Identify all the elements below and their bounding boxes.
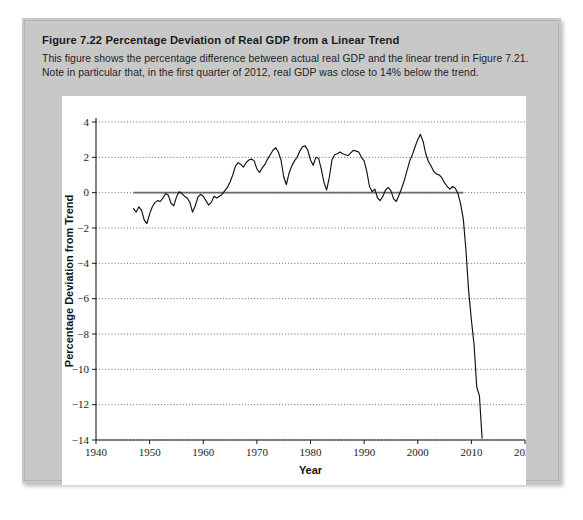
y-tick-label-0: 0 (84, 186, 90, 198)
y-tick-label--8: −8 (77, 328, 89, 340)
y-axis-title: Percentage Deviation from Trend (63, 195, 75, 367)
plot-panel: 420−2−4−6−8−10−12−1419401950196019701980… (62, 96, 526, 485)
x-tick-label-2000: 2000 (407, 446, 430, 458)
x-tick-label-2010: 2010 (460, 446, 483, 458)
y-tick-label--4: −4 (77, 257, 89, 269)
x-tick-label-2020: 2020 (514, 446, 526, 458)
y-tick-label--6: −6 (77, 292, 89, 304)
line-chart: 420−2−4−6−8−10−12−1419401950196019701980… (62, 96, 526, 485)
figure-number: Figure 7.22 (42, 34, 102, 46)
caption-description: This figure shows the percentage differe… (42, 52, 534, 80)
figure-root: Figure 7.22 Percentage Deviation of Real… (0, 0, 583, 520)
x-axis-title: Year (299, 464, 323, 476)
y-tick-label-4: 4 (84, 116, 90, 128)
y-tick-label-2: 2 (84, 151, 90, 163)
caption-title-line: Figure 7.22 Percentage Deviation of Real… (42, 33, 534, 48)
x-tick-label-1960: 1960 (192, 446, 215, 458)
x-tick-label-1970: 1970 (246, 446, 269, 458)
y-tick-label--12: −12 (72, 398, 89, 410)
series-line-0 (134, 134, 483, 438)
y-tick-label--14: −14 (72, 434, 90, 446)
x-tick-label-1950: 1950 (139, 446, 162, 458)
x-tick-label-1980: 1980 (300, 446, 323, 458)
x-tick-label-1940: 1940 (85, 446, 108, 458)
y-tick-label--2: −2 (77, 222, 89, 234)
x-tick-label-1990: 1990 (353, 446, 376, 458)
figure-caption: Figure 7.22 Percentage Deviation of Real… (42, 33, 534, 80)
figure-title: Percentage Deviation of Real GDP from a … (105, 34, 399, 46)
